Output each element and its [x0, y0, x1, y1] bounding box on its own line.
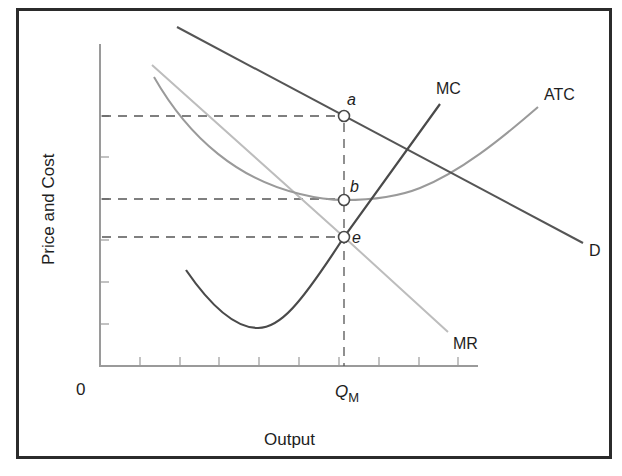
atc-curve: [154, 77, 538, 200]
point-a: [339, 111, 350, 122]
x-ticks: [140, 357, 458, 366]
point-b: [339, 195, 350, 206]
d-label: D: [589, 242, 601, 259]
point-a-label: a: [347, 91, 356, 108]
mr-label: MR: [453, 335, 478, 352]
point-e: [339, 232, 350, 243]
point-b-label: b: [350, 178, 359, 195]
qm-main: Q: [335, 382, 348, 401]
demand-curve: [177, 27, 583, 243]
mr-curve: [152, 65, 448, 332]
mc-curve: [186, 104, 440, 328]
y-ticks: [100, 116, 109, 324]
atc-label: ATC: [544, 86, 575, 103]
qm-sub: M: [348, 390, 359, 405]
mc-label: MC: [436, 80, 461, 97]
axes: [99, 44, 478, 366]
x-axis-title: Output: [264, 430, 315, 449]
y-axis-title: Price and Cost: [39, 153, 58, 265]
monopoly-chart: a b e MC ATC D MR 0 QM Output Price and …: [0, 0, 622, 476]
dashed-guides: [102, 116, 344, 366]
origin-label: 0: [76, 380, 85, 399]
qm-label: QM: [335, 382, 359, 405]
point-e-label: e: [352, 229, 361, 246]
